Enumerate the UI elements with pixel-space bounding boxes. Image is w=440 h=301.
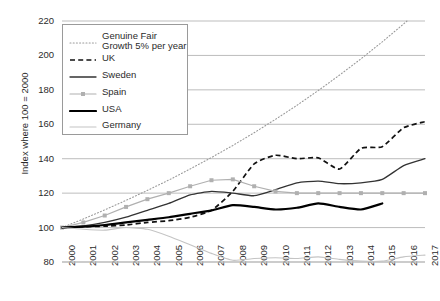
thin-line-swatch xyxy=(69,69,97,81)
series-marker xyxy=(188,184,192,188)
series-line xyxy=(62,122,425,228)
legend-item[interactable]: Spain xyxy=(63,85,189,99)
series-marker xyxy=(423,191,427,195)
legend-item-label: USA xyxy=(102,104,122,115)
legend-item[interactable]: Genuine Fair Growth 5% per year xyxy=(63,30,189,52)
series-marker xyxy=(380,191,384,195)
thick-line-swatch xyxy=(69,103,97,115)
legend-item-label: Spain xyxy=(102,87,126,98)
series-marker xyxy=(81,220,85,224)
chart-legend: Genuine Fair Growth 5% per yearUKSwedenS… xyxy=(62,24,188,135)
series-marker xyxy=(402,191,406,195)
series-marker xyxy=(316,191,320,195)
series-marker xyxy=(145,197,149,201)
legend-item-label: Sweden xyxy=(102,70,136,81)
series-marker xyxy=(338,191,342,195)
legend-item[interactable]: Germany xyxy=(63,118,189,132)
series-marker xyxy=(209,178,213,182)
series-marker xyxy=(231,177,235,181)
series-marker xyxy=(103,214,107,218)
legend-item[interactable]: UK xyxy=(63,51,189,65)
series-marker xyxy=(124,205,128,209)
series-marker xyxy=(167,191,171,195)
light-line-swatch xyxy=(69,119,97,131)
series-marker xyxy=(274,189,278,193)
series-line xyxy=(62,228,425,262)
series-marker xyxy=(295,191,299,195)
legend-item[interactable]: USA xyxy=(63,102,189,116)
dotted-swatch xyxy=(69,35,97,47)
series-marker xyxy=(359,191,363,195)
legend-item-label: Genuine Fair Growth 5% per year xyxy=(102,31,186,52)
series-marker xyxy=(252,184,256,188)
legend-item-label: UK xyxy=(102,53,115,64)
legend-item-label: Germany xyxy=(102,120,141,131)
dashed-swatch xyxy=(69,52,97,64)
legend-item[interactable]: Sweden xyxy=(63,68,189,82)
marker-line-swatch xyxy=(69,86,97,98)
